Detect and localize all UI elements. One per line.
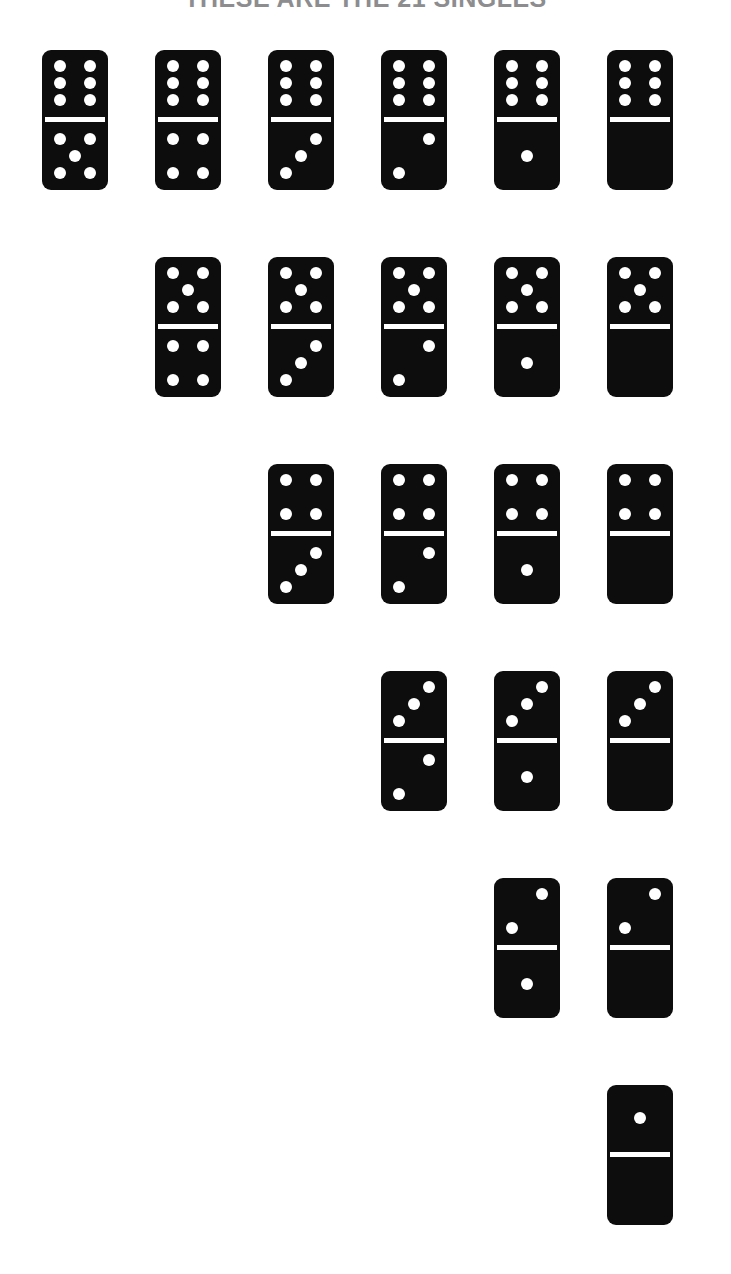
- pip: [167, 133, 179, 145]
- domino-tile-6-5[interactable]: [42, 50, 108, 190]
- pip: [167, 60, 179, 72]
- domino-half-top: [42, 50, 108, 117]
- domino-tile-6-0[interactable]: [607, 50, 673, 190]
- pip: [619, 922, 631, 934]
- pip: [649, 474, 661, 486]
- domino-divider: [384, 531, 444, 536]
- pip: [280, 167, 292, 179]
- pip: [649, 60, 661, 72]
- pip: [84, 167, 96, 179]
- pip: [69, 150, 81, 162]
- pip: [619, 508, 631, 520]
- pip: [54, 133, 66, 145]
- pip: [310, 77, 322, 89]
- domino-divider: [45, 117, 105, 122]
- pip: [423, 754, 435, 766]
- pip: [423, 474, 435, 486]
- pip: [423, 77, 435, 89]
- pip: [393, 474, 405, 486]
- pip: [634, 698, 646, 710]
- domino-half-top: [607, 1085, 673, 1152]
- pip: [521, 357, 533, 369]
- pip: [408, 698, 420, 710]
- domino-row: [0, 1085, 731, 1225]
- pip: [649, 77, 661, 89]
- domino-half-bottom: [381, 330, 447, 397]
- domino-tile-6-4[interactable]: [155, 50, 221, 190]
- pip: [408, 284, 420, 296]
- pip: [649, 267, 661, 279]
- pip: [521, 771, 533, 783]
- pip: [310, 94, 322, 106]
- domino-tile-4-2[interactable]: [381, 464, 447, 604]
- domino-half-bottom: [494, 537, 560, 604]
- domino-tile-4-3[interactable]: [268, 464, 334, 604]
- domino-tile-6-2[interactable]: [381, 50, 447, 190]
- pip: [197, 301, 209, 313]
- domino-tile-2-0[interactable]: [607, 878, 673, 1018]
- pip: [84, 60, 96, 72]
- pip: [506, 922, 518, 934]
- pip: [310, 60, 322, 72]
- domino-tile-5-4[interactable]: [155, 257, 221, 397]
- pip: [280, 474, 292, 486]
- pip: [649, 94, 661, 106]
- pip: [521, 698, 533, 710]
- pip: [423, 94, 435, 106]
- domino-tile-5-2[interactable]: [381, 257, 447, 397]
- domino-tile-2-1[interactable]: [494, 878, 560, 1018]
- pip: [280, 267, 292, 279]
- pip: [521, 978, 533, 990]
- domino-row: [0, 671, 731, 811]
- pip: [423, 301, 435, 313]
- domino-tile-5-3[interactable]: [268, 257, 334, 397]
- domino-half-top: [381, 50, 447, 117]
- domino-half-top: [381, 671, 447, 738]
- pip: [393, 374, 405, 386]
- pip: [197, 374, 209, 386]
- domino-half-top: [155, 257, 221, 324]
- pip: [506, 60, 518, 72]
- domino-divider: [271, 531, 331, 536]
- domino-divider: [497, 531, 557, 536]
- pip: [310, 474, 322, 486]
- domino-tile-3-1[interactable]: [494, 671, 560, 811]
- pip: [536, 474, 548, 486]
- pip: [310, 301, 322, 313]
- domino-half-top: [381, 257, 447, 324]
- pip: [182, 284, 194, 296]
- pip: [423, 267, 435, 279]
- domino-half-top: [494, 878, 560, 945]
- pip: [506, 474, 518, 486]
- pip: [506, 77, 518, 89]
- pip: [423, 133, 435, 145]
- domino-tile-4-0[interactable]: [607, 464, 673, 604]
- domino-half-bottom: [494, 951, 560, 1018]
- pip: [310, 340, 322, 352]
- domino-tile-6-1[interactable]: [494, 50, 560, 190]
- pip: [54, 60, 66, 72]
- domino-tile-4-1[interactable]: [494, 464, 560, 604]
- pip: [649, 508, 661, 520]
- domino-tile-3-0[interactable]: [607, 671, 673, 811]
- domino-divider: [271, 324, 331, 329]
- pip: [536, 681, 548, 693]
- domino-tile-5-1[interactable]: [494, 257, 560, 397]
- domino-half-bottom: [607, 330, 673, 397]
- domino-tile-6-3[interactable]: [268, 50, 334, 190]
- pip: [393, 715, 405, 727]
- domino-tile-3-2[interactable]: [381, 671, 447, 811]
- pip: [393, 94, 405, 106]
- domino-divider: [384, 738, 444, 743]
- pip: [280, 581, 292, 593]
- pip: [506, 715, 518, 727]
- domino-half-top: [607, 50, 673, 117]
- domino-tile-5-0[interactable]: [607, 257, 673, 397]
- pip: [280, 374, 292, 386]
- domino-tile-1-0[interactable]: [607, 1085, 673, 1225]
- pip: [54, 167, 66, 179]
- pip: [84, 77, 96, 89]
- pip: [619, 77, 631, 89]
- domino-half-top: [268, 257, 334, 324]
- domino-half-top: [268, 464, 334, 531]
